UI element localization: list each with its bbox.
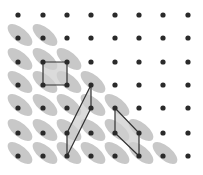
lattice-dot bbox=[64, 35, 69, 40]
lattice-dot bbox=[136, 12, 141, 17]
lattice-dot bbox=[112, 59, 117, 64]
lattice-diagram bbox=[0, 0, 203, 175]
lattice-dot bbox=[112, 130, 117, 135]
lattice-dot bbox=[64, 130, 69, 135]
ellipse-layer bbox=[4, 20, 181, 168]
lattice-dot bbox=[40, 82, 45, 87]
ellipse-shape bbox=[29, 90, 61, 120]
lattice-dot bbox=[40, 59, 45, 64]
lattice-dot bbox=[88, 35, 93, 40]
lattice-dot bbox=[185, 105, 190, 110]
ellipse-shape bbox=[4, 67, 36, 97]
lattice-dot bbox=[15, 105, 20, 110]
lattice-dot bbox=[15, 35, 20, 40]
ellipse-shape bbox=[4, 44, 36, 74]
lattice-dot bbox=[136, 153, 141, 158]
ellipse-shape bbox=[149, 138, 181, 168]
ellipse-shape bbox=[29, 138, 61, 168]
lattice-dot bbox=[15, 130, 20, 135]
ellipse-shape bbox=[4, 115, 36, 145]
ellipse-shape bbox=[4, 90, 36, 120]
lattice-dot bbox=[88, 153, 93, 158]
lattice-dot bbox=[40, 153, 45, 158]
lattice-dot bbox=[185, 82, 190, 87]
lattice-dot bbox=[160, 153, 165, 158]
lattice-dot bbox=[160, 130, 165, 135]
lattice-dot bbox=[160, 82, 165, 87]
lattice-dot bbox=[160, 35, 165, 40]
lattice-dot bbox=[136, 105, 141, 110]
lattice-dot bbox=[185, 153, 190, 158]
lattice-dot bbox=[64, 105, 69, 110]
lattice-dot bbox=[64, 12, 69, 17]
lattice-dot bbox=[112, 12, 117, 17]
lattice-dot bbox=[136, 82, 141, 87]
lattice-dot bbox=[136, 59, 141, 64]
lattice-dot bbox=[40, 130, 45, 135]
lattice-dot bbox=[88, 59, 93, 64]
ellipse-shape bbox=[29, 115, 61, 145]
ellipse-shape bbox=[4, 20, 36, 50]
ellipse-shape bbox=[77, 138, 109, 168]
lattice-dot bbox=[136, 35, 141, 40]
lattice-dot bbox=[185, 59, 190, 64]
lattice-dot bbox=[40, 12, 45, 17]
lattice-dot bbox=[88, 105, 93, 110]
lattice-dot bbox=[112, 105, 117, 110]
lattice-dot bbox=[112, 35, 117, 40]
lattice-dot bbox=[185, 12, 190, 17]
lattice-dot bbox=[136, 130, 141, 135]
lattice-dot bbox=[160, 12, 165, 17]
lattice-dot bbox=[15, 12, 20, 17]
lattice-dot bbox=[64, 153, 69, 158]
ellipse-shape bbox=[4, 138, 36, 168]
lattice-dot bbox=[15, 153, 20, 158]
lattice-dot bbox=[185, 35, 190, 40]
lattice-dot bbox=[160, 59, 165, 64]
lattice-dot bbox=[64, 82, 69, 87]
square-shape bbox=[43, 62, 67, 85]
lattice-dot bbox=[40, 105, 45, 110]
ellipse-shape bbox=[29, 20, 61, 50]
lattice-dot bbox=[15, 82, 20, 87]
lattice-dot bbox=[185, 130, 190, 135]
lattice-dot bbox=[88, 82, 93, 87]
ellipse-shape bbox=[77, 67, 109, 97]
lattice-dot bbox=[40, 35, 45, 40]
lattice-dot bbox=[112, 153, 117, 158]
lattice-dot bbox=[160, 105, 165, 110]
lattice-dot bbox=[88, 130, 93, 135]
lattice-dot bbox=[112, 82, 117, 87]
lattice-dot bbox=[64, 59, 69, 64]
lattice-dot bbox=[88, 12, 93, 17]
lattice-dot bbox=[15, 59, 20, 64]
